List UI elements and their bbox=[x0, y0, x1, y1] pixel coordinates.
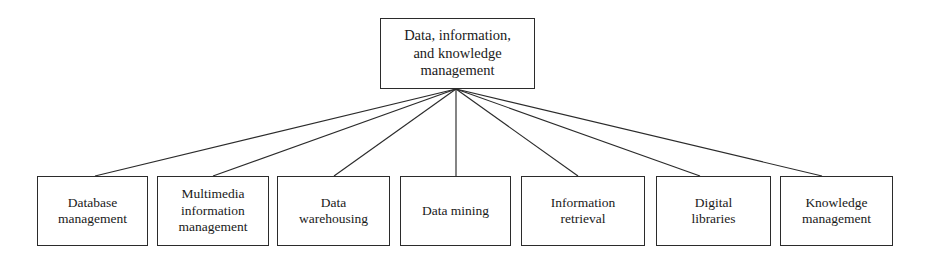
node-information-retrieval-label: Information retrieval bbox=[547, 195, 619, 228]
edge-root-to-data-warehousing bbox=[334, 89, 456, 176]
node-data-warehousing: Data warehousing bbox=[277, 176, 390, 246]
node-data-warehousing-label: Data warehousing bbox=[295, 195, 372, 228]
node-knowledge-management-label: Knowledge management bbox=[798, 195, 875, 228]
edge-root-to-information-retrieval bbox=[456, 89, 578, 176]
root-node-label: Data, information, and knowledge managem… bbox=[400, 27, 515, 80]
node-database-management-label: Database management bbox=[54, 195, 131, 228]
edge-root-to-database-management bbox=[95, 89, 456, 176]
node-multimedia-information-management: Multimedia information management bbox=[157, 176, 269, 246]
node-database-management: Database management bbox=[37, 176, 148, 246]
edge-root-to-digital-libraries bbox=[456, 89, 700, 176]
diagram-canvas: Data, information, and knowledge managem… bbox=[0, 0, 930, 273]
node-knowledge-management: Knowledge management bbox=[780, 176, 893, 246]
edge-root-to-multimedia-information-management bbox=[213, 89, 456, 176]
node-digital-libraries: Digital libraries bbox=[656, 176, 771, 246]
node-data-mining: Data mining bbox=[400, 176, 511, 246]
root-node: Data, information, and knowledge managem… bbox=[380, 18, 535, 89]
node-multimedia-information-management-label: Multimedia information management bbox=[175, 186, 252, 235]
edge-root-to-knowledge-management bbox=[456, 89, 822, 176]
node-information-retrieval: Information retrieval bbox=[521, 176, 645, 246]
node-data-mining-label: Data mining bbox=[418, 203, 493, 219]
node-digital-libraries-label: Digital libraries bbox=[687, 195, 739, 228]
